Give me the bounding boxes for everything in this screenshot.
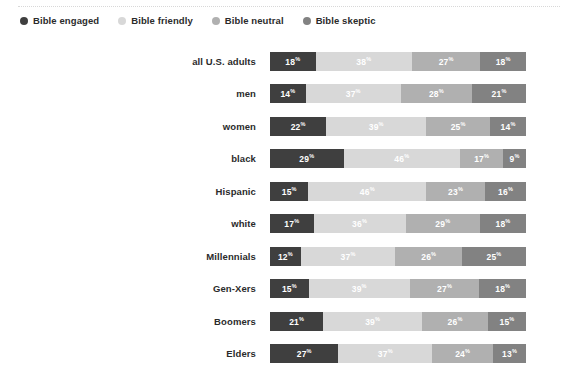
bar-segment[interactable]: 17%: [270, 214, 314, 233]
bar-segment-value: 28%: [429, 89, 444, 98]
row-category-label: white: [0, 218, 270, 229]
bar-segment-value: 21%: [492, 89, 507, 98]
bar-segment[interactable]: 21%: [270, 312, 323, 331]
chart-row: Boomers21%39%26%15%: [0, 305, 574, 338]
legend-item[interactable]: Bible friendly: [118, 15, 193, 26]
bar-segment[interactable]: 39%: [309, 279, 410, 298]
bar-segment[interactable]: 27%: [412, 52, 480, 71]
bar-segment[interactable]: 29%: [406, 214, 480, 233]
bar-segment-value: 18%: [495, 219, 510, 228]
bar-segment-value: 15%: [282, 284, 297, 293]
bar-segment[interactable]: 39%: [326, 117, 426, 136]
row-category-label: Boomers: [0, 316, 270, 327]
bar-segment-value: 26%: [421, 252, 436, 261]
bar-segment[interactable]: 37%: [301, 247, 396, 266]
legend-item-label: Bible friendly: [131, 15, 193, 26]
row-category-label: Elders: [0, 348, 270, 359]
legend-item-label: Bible engaged: [33, 15, 99, 26]
legend-dot-icon: [303, 17, 311, 25]
bar-segment-value: 37%: [346, 89, 361, 98]
bar-track: 12%37%26%25%: [270, 247, 526, 266]
legend-dot-icon: [212, 17, 220, 25]
bar-segment[interactable]: 15%: [270, 279, 309, 298]
bar-segment[interactable]: 18%: [480, 52, 526, 71]
legend-item-label: Bible skeptic: [316, 15, 376, 26]
bar-segment-value: 9%: [510, 154, 520, 163]
bar-segment[interactable]: 9%: [503, 149, 526, 168]
bar-segment[interactable]: 38%: [316, 52, 412, 71]
bar-segment-value: 13%: [502, 349, 517, 358]
bar-segment[interactable]: 17%: [460, 149, 503, 168]
bar-segment[interactable]: 27%: [410, 279, 480, 298]
bar-segment[interactable]: 28%: [401, 84, 473, 103]
bar-segment-value: 39%: [352, 284, 367, 293]
bar-track: 15%46%23%16%: [270, 182, 526, 201]
bar-segment-value: 27%: [297, 349, 312, 358]
bar-segment-value: 27%: [439, 57, 454, 66]
chart-rows: all U.S. adults18%38%27%18%men14%37%28%2…: [0, 45, 574, 370]
bar-segment[interactable]: 18%: [480, 214, 526, 233]
bar-segment[interactable]: 25%: [426, 117, 490, 136]
chart-row: black29%46%17%9%: [0, 143, 574, 176]
legend-item[interactable]: Bible neutral: [212, 15, 284, 26]
legend-item[interactable]: Bible skeptic: [303, 15, 376, 26]
row-category-label: Gen-Xers: [0, 283, 270, 294]
chart-row: women22%39%25%14%: [0, 110, 574, 143]
bar-segment-value: 38%: [356, 57, 371, 66]
bar-segment[interactable]: 15%: [488, 312, 526, 331]
legend-dot-icon: [20, 17, 28, 25]
bar-segment[interactable]: 12%: [270, 247, 301, 266]
bar-segment-value: 29%: [299, 154, 314, 163]
chart-row: white17%36%29%18%: [0, 208, 574, 241]
bar-segment[interactable]: 37%: [306, 84, 401, 103]
bar-track: 27%37%24%13%: [270, 344, 526, 363]
row-category-label: black: [0, 153, 270, 164]
bar-segment[interactable]: 13%: [493, 344, 526, 363]
row-category-label: women: [0, 121, 270, 132]
bar-segment-value: 23%: [448, 187, 463, 196]
bar-segment[interactable]: 39%: [323, 312, 422, 331]
bar-segment[interactable]: 14%: [270, 84, 306, 103]
bar-segment-value: 14%: [280, 89, 295, 98]
legend-item-label: Bible neutral: [225, 15, 284, 26]
bar-segment[interactable]: 46%: [344, 149, 461, 168]
bar-track: 18%38%27%18%: [270, 52, 526, 71]
bar-segment[interactable]: 29%: [270, 149, 344, 168]
bar-segment[interactable]: 25%: [462, 247, 526, 266]
chart-row: men14%37%28%21%: [0, 78, 574, 111]
row-category-label: Hispanic: [0, 186, 270, 197]
bar-segment[interactable]: 26%: [422, 312, 488, 331]
top-dotted-rule: [18, 6, 560, 8]
legend-item[interactable]: Bible engaged: [20, 15, 99, 26]
chart-row: Gen-Xers15%39%27%18%: [0, 273, 574, 306]
bar-segment-value: 17%: [474, 154, 489, 163]
bar-track: 15%39%27%18%: [270, 279, 526, 298]
bar-segment[interactable]: 27%: [270, 344, 338, 363]
bar-segment-value: 29%: [435, 219, 450, 228]
bar-track: 21%39%26%15%: [270, 312, 526, 331]
bar-segment[interactable]: 15%: [270, 182, 308, 201]
bar-segment[interactable]: 18%: [479, 279, 526, 298]
bar-segment[interactable]: 36%: [314, 214, 406, 233]
chart-row: Elders27%37%24%13%: [0, 338, 574, 371]
bar-segment-value: 24%: [455, 349, 470, 358]
bar-segment[interactable]: 18%: [270, 52, 316, 71]
chart-row: all U.S. adults18%38%27%18%: [0, 45, 574, 78]
bar-segment[interactable]: 16%: [485, 182, 526, 201]
stacked-bar-chart: Bible engagedBible friendlyBible neutral…: [0, 0, 574, 381]
bar-segment[interactable]: 26%: [395, 247, 462, 266]
bar-segment[interactable]: 23%: [426, 182, 485, 201]
bar-segment-value: 18%: [495, 284, 510, 293]
bar-segment[interactable]: 22%: [270, 117, 326, 136]
bar-segment[interactable]: 37%: [338, 344, 432, 363]
bar-segment[interactable]: 14%: [490, 117, 526, 136]
bar-segment[interactable]: 21%: [472, 84, 526, 103]
bar-segment-value: 12%: [278, 252, 293, 261]
bar-segment[interactable]: 46%: [308, 182, 426, 201]
chart-legend: Bible engagedBible friendlyBible neutral…: [20, 15, 376, 26]
bar-segment-value: 46%: [360, 187, 375, 196]
bar-segment-value: 16%: [498, 187, 513, 196]
bar-segment-value: 21%: [289, 317, 304, 326]
bar-segment-value: 36%: [352, 219, 367, 228]
bar-segment[interactable]: 24%: [432, 344, 493, 363]
